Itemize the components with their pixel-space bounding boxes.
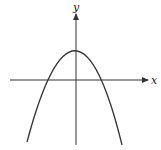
y-axis-label: y: [72, 1, 80, 14]
parabola-curve: [27, 51, 122, 145]
x-axis-label: x: [151, 74, 158, 87]
parabola-graph: x y: [0, 0, 161, 150]
